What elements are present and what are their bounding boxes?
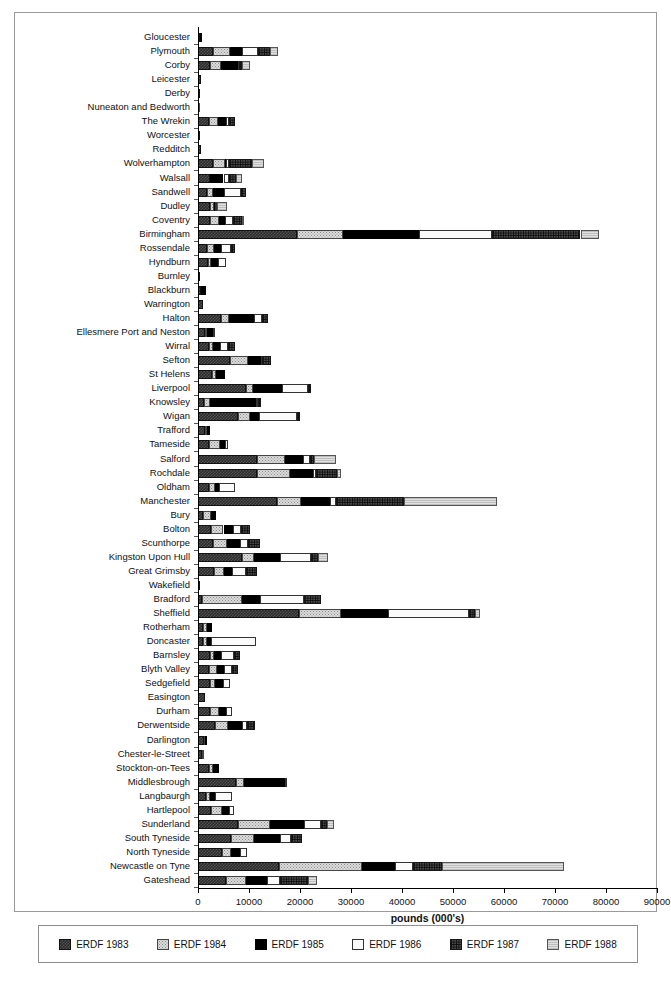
legend-item: ERDF 1985 xyxy=(255,939,324,950)
bar-segment-erdf-1986 xyxy=(211,637,256,646)
bar-segment-erdf-1985 xyxy=(230,47,242,56)
bar-segment-erdf-1985 xyxy=(216,370,225,379)
page-bleed-text xyxy=(0,0,671,10)
bar-row xyxy=(198,595,657,604)
bar-segment-erdf-1986 xyxy=(233,525,242,534)
bar-segment-erdf-1984 xyxy=(257,455,285,464)
bar-segment-erdf-1985 xyxy=(211,511,216,520)
category-label: Bury xyxy=(10,510,190,520)
bar-segment-erdf-1985 xyxy=(248,356,260,365)
bar-row xyxy=(198,75,657,84)
bar-segment-erdf-1983 xyxy=(198,609,299,618)
bar-segment-erdf-1986 xyxy=(232,567,246,576)
x-axis-tick xyxy=(402,888,403,893)
bar-segment-erdf-1983 xyxy=(198,764,209,773)
bar-segment-erdf-1984 xyxy=(210,707,219,716)
bar-segment-erdf-1986 xyxy=(225,440,228,449)
bar-segment-erdf-1987 xyxy=(228,342,235,351)
bar-segment-erdf-1988 xyxy=(327,820,334,829)
bar-segment-erdf-1984 xyxy=(211,525,223,534)
bar-segment-erdf-1985 xyxy=(253,384,282,393)
bar-segment-erdf-1983 xyxy=(198,174,210,183)
bar-row xyxy=(198,47,657,56)
bar-segment-erdf-1985 xyxy=(254,553,280,562)
bar-segment-erdf-1986 xyxy=(419,230,492,239)
bar-segment-erdf-1987 xyxy=(232,665,238,674)
bar-segment-erdf-1984 xyxy=(209,665,217,674)
bar-row xyxy=(198,300,657,309)
category-label: Salford xyxy=(10,454,190,464)
bar-segment-erdf-1986 xyxy=(226,707,232,716)
bar-segment-erdf-1985 xyxy=(221,61,237,70)
bar-row xyxy=(198,679,657,688)
bar-segment-erdf-1983 xyxy=(198,862,279,871)
bar-segment-erdf-1985 xyxy=(228,721,242,730)
bar-segment-erdf-1987 xyxy=(258,398,261,407)
category-label: Sefton xyxy=(10,355,190,365)
bar-segment-erdf-1987 xyxy=(304,595,321,604)
legend-label: ERDF 1985 xyxy=(272,939,324,950)
x-axis-tick xyxy=(606,888,607,893)
category-label: North Tyneside xyxy=(10,847,190,857)
bar-segment-erdf-1987 xyxy=(246,567,256,576)
bar-segment-erdf-1983 xyxy=(198,651,210,660)
bar-segment-erdf-1984 xyxy=(213,159,224,168)
bar-segment-erdf-1983 xyxy=(198,848,222,857)
category-label: Oldham xyxy=(10,482,190,492)
bar-segment-erdf-1984 xyxy=(277,497,300,506)
bar-segment-erdf-1987 xyxy=(241,188,246,197)
bar-segment-erdf-1985 xyxy=(213,342,220,351)
bar-segment-erdf-1985 xyxy=(270,820,304,829)
bar-segment-erdf-1984 xyxy=(231,834,254,843)
category-label: Sunderland xyxy=(10,819,190,829)
bar-row xyxy=(198,820,657,829)
category-label: Stockton-on-Tees xyxy=(10,763,190,773)
bar-segment-erdf-1987 xyxy=(229,159,252,168)
bar-segment-erdf-1983 xyxy=(198,525,211,534)
category-label: Gloucester xyxy=(10,32,190,42)
bar-segment-erdf-1987 xyxy=(280,876,308,885)
bar-segment-erdf-1985 xyxy=(201,286,206,295)
bar-segment-erdf-1985 xyxy=(343,230,419,239)
category-label: South Tyneside xyxy=(10,833,190,843)
bar-segment-erdf-1986 xyxy=(388,609,470,618)
bar-row xyxy=(198,328,657,337)
bar-segment-erdf-1984 xyxy=(210,61,221,70)
category-label: The Wrekin xyxy=(10,116,190,126)
bar-row xyxy=(198,721,657,730)
bar-row xyxy=(198,412,657,421)
bar-segment-erdf-1983 xyxy=(198,342,209,351)
bar-segment-erdf-1984 xyxy=(213,539,227,548)
bar-segment-erdf-1984 xyxy=(238,820,271,829)
category-label: Darlington xyxy=(10,735,190,745)
bar-segment-erdf-1983 xyxy=(198,440,209,449)
bar-segment-erdf-1984 xyxy=(297,230,343,239)
bar-row xyxy=(198,707,657,716)
bar-segment-erdf-1984 xyxy=(203,511,212,520)
category-label: Rossendale xyxy=(10,243,190,253)
bar-segment-erdf-1987 xyxy=(413,862,442,871)
category-label: Dudley xyxy=(10,201,190,211)
bar-segment-erdf-1986 xyxy=(282,384,309,393)
bar-segment-erdf-1987 xyxy=(308,384,311,393)
bar-segment-erdf-1985 xyxy=(341,609,388,618)
bar-segment-erdf-1983 xyxy=(198,792,206,801)
bar-row xyxy=(198,272,657,281)
bar-segment-erdf-1986 xyxy=(395,862,413,871)
bar-segment-erdf-1985 xyxy=(213,188,224,197)
bar-segment-erdf-1986 xyxy=(224,665,232,674)
bar-segment-erdf-1983 xyxy=(198,876,226,885)
bar-segment-erdf-1983 xyxy=(198,188,207,197)
bar-segment-erdf-1988 xyxy=(270,47,278,56)
legend-item: ERDF 1987 xyxy=(450,939,519,950)
bar-segment-erdf-1984 xyxy=(202,595,242,604)
bar-row xyxy=(198,440,657,449)
bar-segment-erdf-1984 xyxy=(209,440,220,449)
bar-segment-erdf-1985 xyxy=(254,834,280,843)
bar-segment-erdf-1988 xyxy=(308,876,318,885)
bar-row xyxy=(198,876,657,885)
bar-segment-erdf-1984 xyxy=(242,553,254,562)
bar-segment-erdf-1986 xyxy=(280,553,311,562)
bar-segment-erdf-1983 xyxy=(198,820,238,829)
legend-label: ERDF 1986 xyxy=(369,939,421,950)
